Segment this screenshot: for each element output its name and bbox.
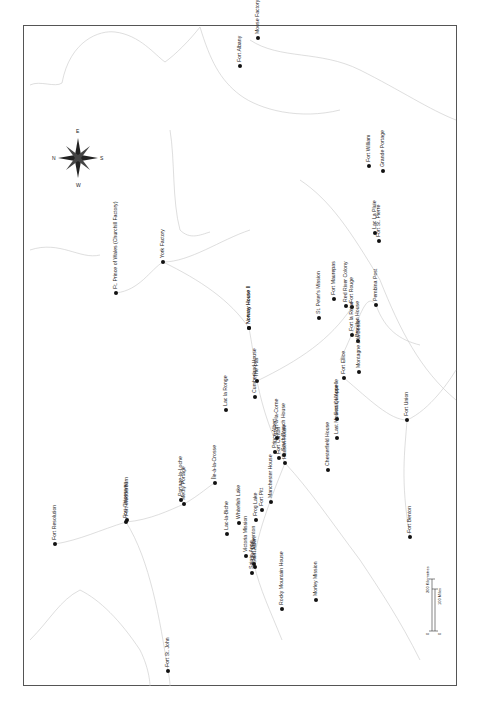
place-marker-dot (225, 532, 229, 536)
place-marker-dot (253, 395, 257, 399)
compass-rose: E N S W (50, 130, 106, 186)
place-marker-dot (342, 376, 346, 380)
place-label: Fort William (366, 135, 371, 162)
place-marker-dot (332, 297, 336, 301)
place-label: Fort St. Pierre (376, 205, 381, 237)
place-label: Île-à-la-Crosse (212, 445, 217, 479)
compass-north-label: N (52, 155, 56, 161)
place-label: Fort Wedderburn (124, 477, 129, 516)
place-marker-dot (125, 518, 129, 522)
place-label: Fort St. John (165, 637, 170, 667)
place-label: Fort Union (404, 392, 409, 416)
place-label: Lac la Ronge (223, 375, 228, 406)
place-marker-dot (166, 669, 170, 673)
place-label: Manchester House (268, 454, 273, 498)
place-marker-dot (280, 607, 284, 611)
place-marker-dot (161, 260, 165, 264)
scale-zero-km: 0 (426, 633, 430, 635)
place-marker-dot (377, 239, 381, 243)
place-label: York Factory (160, 229, 165, 258)
compass-star-icon (50, 130, 106, 186)
place-label: Cumberland House (252, 348, 257, 393)
place-label: Fort Rouge (349, 277, 354, 303)
place-marker-dot (326, 468, 330, 472)
place-marker-dot (256, 36, 260, 40)
place-marker-dot (381, 169, 385, 173)
place-marker-dot (367, 164, 371, 168)
place-label: Fort Ellice (341, 351, 346, 374)
place-marker-dot (260, 508, 264, 512)
map-geography-lines (0, 0, 484, 702)
place-marker-dot (237, 521, 241, 525)
place-marker-dot (357, 370, 361, 374)
place-marker-dot (254, 518, 258, 522)
place-marker-dot (408, 535, 412, 539)
place-marker-dot (182, 502, 186, 506)
scale-zero-mi: 0 (438, 633, 442, 635)
compass-east-label: E (76, 128, 79, 134)
place-label: Chesterfield House (325, 422, 330, 466)
place-label: Fort Pitt (259, 488, 264, 506)
place-marker-dot (250, 571, 254, 575)
place-marker-dot (269, 500, 273, 504)
scale-mi-label: 100 Miles (438, 588, 442, 605)
place-label: St. Peter's Mission (316, 271, 321, 314)
compass-south-label: S (100, 155, 103, 161)
place-marker-dot (238, 64, 242, 68)
place-label: Montagne à la Bosse (356, 319, 361, 368)
scale-bar: 200 Kilometres 100 Miles 0 0 (424, 575, 444, 635)
place-marker-dot (247, 326, 251, 330)
place-marker-dot (405, 418, 409, 422)
place-label: Ft. Prince of Wales (Churchill Factory) (113, 202, 118, 289)
place-label: Lac-la-Biche (224, 501, 229, 530)
compass-west-label: W (76, 182, 81, 188)
place-label: Fort Albany (237, 36, 242, 62)
place-marker-dot (213, 481, 217, 485)
place-label: Hudson House (282, 425, 287, 459)
place-marker-dot (283, 461, 287, 465)
place-label: Whitefish Lake (236, 485, 241, 519)
place-marker-dot (114, 291, 118, 295)
place-marker-dot (53, 542, 57, 546)
place-label: Fort Maurepas (331, 261, 336, 295)
place-marker-dot (317, 316, 321, 320)
place-label: Moose Factory (255, 0, 260, 34)
place-label: Rocky Mountain House (279, 551, 284, 605)
place-label: Grande Portage (380, 130, 385, 167)
place-marker-dot (314, 598, 318, 602)
place-marker-dot (253, 565, 257, 569)
place-label: Methy Portage (181, 466, 186, 500)
place-label: Pembina Post (373, 269, 378, 301)
place-label: Fort Resolution (52, 505, 57, 540)
place-label: Last Mountain House (334, 385, 339, 434)
place-marker-dot (374, 303, 378, 307)
place-marker-dot (224, 408, 228, 412)
scale-km-label: 200 Kilometres (426, 566, 430, 593)
place-label: Norway House I (246, 287, 251, 324)
place-label: Morley Mission (313, 561, 318, 596)
place-label: Fort Benton (407, 506, 412, 533)
place-label: Saint Albert (252, 536, 257, 563)
place-marker-dot (335, 436, 339, 440)
